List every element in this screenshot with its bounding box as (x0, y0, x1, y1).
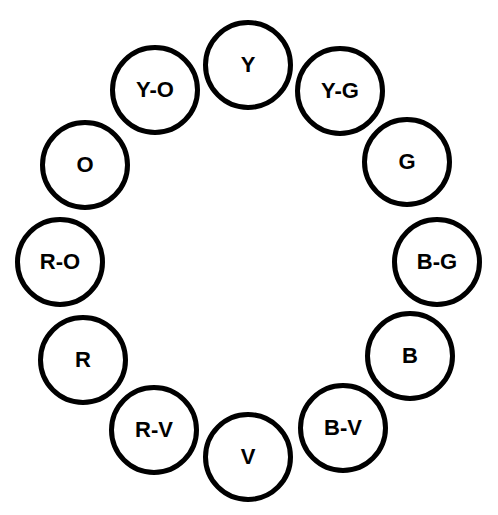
node-yellow: Y (203, 20, 293, 110)
node-label: Y (241, 52, 256, 78)
node-label: B-V (324, 415, 362, 441)
node-orange: O (40, 120, 130, 210)
node-red: R (38, 315, 128, 405)
node-label: R-V (135, 417, 173, 443)
node-blue: B (365, 311, 455, 401)
node-blue-violet: B-V (298, 383, 388, 473)
node-label: V (241, 444, 256, 470)
node-green: G (362, 117, 452, 207)
node-label: B (402, 343, 418, 369)
node-label: Y-O (136, 77, 174, 103)
node-red-violet: R-V (109, 385, 199, 475)
node-label: B-G (417, 249, 457, 275)
node-label: R-O (40, 249, 80, 275)
node-red-orange: R-O (15, 217, 105, 307)
node-label: Y-G (321, 78, 359, 104)
node-label: O (76, 152, 93, 178)
node-violet: V (203, 412, 293, 502)
color-wheel-diagram: Y Y-G G B-G B B-V V R-V R R-O O Y-O (0, 0, 498, 515)
node-blue-green: B-G (392, 217, 482, 307)
node-yellow-green: Y-G (295, 46, 385, 136)
node-label: G (398, 149, 415, 175)
node-yellow-orange: Y-O (110, 45, 200, 135)
node-label: R (75, 347, 91, 373)
